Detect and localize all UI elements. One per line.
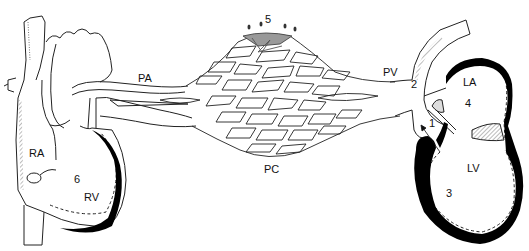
label-5: 5 [265, 14, 271, 25]
rv-wall [60, 130, 122, 233]
label-pulmonary-capillaries: PC [264, 164, 279, 175]
label-4: 4 [465, 98, 471, 109]
label-3: 3 [446, 188, 452, 199]
label-1: 1 [429, 118, 435, 129]
capillary-bed [160, 33, 400, 157]
label-2: 2 [411, 79, 417, 90]
label-pulmonary-vein: PV [383, 67, 398, 78]
right-heart [4, 16, 126, 245]
pulmonary-circulation-diagram: RA RV 6 PA 5 PC PV 2 LA 4 1 LV 3 [0, 0, 529, 251]
droplets [248, 22, 297, 32]
diagram-drawing [0, 0, 529, 251]
label-6: 6 [74, 174, 80, 185]
label-left-ventricle: LV [467, 163, 480, 174]
pulmonary-artery [72, 82, 196, 128]
label-right-ventricle: RV [84, 192, 99, 203]
label-left-atrium: LA [463, 77, 476, 88]
label-pulmonary-artery: PA [138, 73, 152, 84]
label-right-atrium: RA [29, 148, 44, 159]
mitral-leaflet [436, 122, 448, 148]
